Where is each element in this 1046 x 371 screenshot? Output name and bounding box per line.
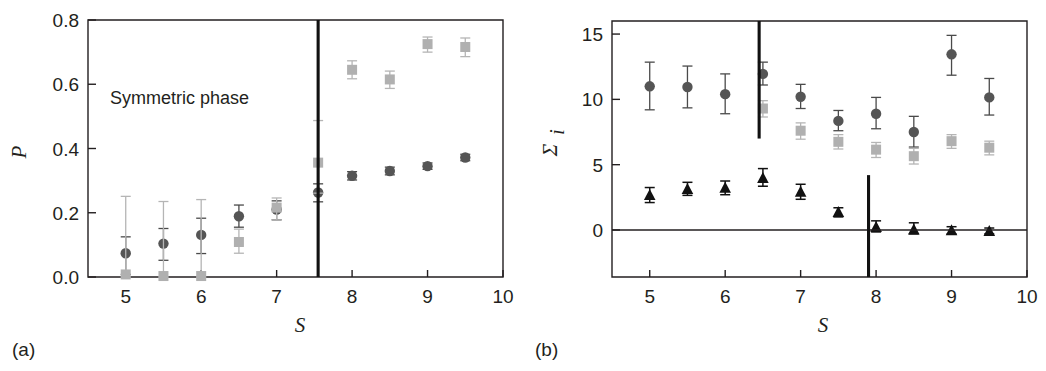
sigma-subscript-i: i [545, 129, 569, 135]
panel-a-x-axis-title: S [295, 313, 306, 337]
data-point-dark-circles [984, 78, 994, 115]
data-point-dark-circles [909, 116, 919, 147]
data-point-black-triangles [682, 182, 694, 195]
y-tick-label: 0.6 [53, 74, 79, 95]
panel-b-y-axis-title: Σ i [538, 129, 569, 157]
y-tick-label: 0.2 [53, 203, 79, 224]
data-point-dark-circles [234, 205, 244, 227]
y-tick-label: 0.8 [53, 10, 79, 31]
y-tick-label: 15 [582, 24, 603, 45]
data-point-black-triangles [795, 184, 807, 199]
panel-a-plot: 56789100.00.20.40.60.8 P S Symmetric pha… [0, 0, 523, 371]
figure-container: 56789100.00.20.40.60.8 P S Symmetric pha… [0, 0, 1046, 371]
data-point-dark-circles [833, 110, 843, 130]
data-point-dark-circles [460, 152, 470, 162]
sigma-symbol: Σ [538, 143, 562, 157]
data-point-dark-circles [720, 74, 730, 114]
x-tick-label: 10 [1016, 286, 1037, 307]
y-tick-label: 0.0 [53, 267, 79, 288]
x-tick-label: 6 [196, 286, 207, 307]
data-point-dark-circles [422, 161, 432, 171]
data-point-dark-circles [645, 62, 655, 110]
y-tick-label: 0.4 [53, 139, 80, 160]
panel-a: 56789100.00.20.40.60.8 P S Symmetric pha… [0, 0, 523, 371]
data-point-dark-circles [385, 166, 395, 176]
panel-a-label: (a) [12, 339, 35, 360]
x-tick-label: 9 [946, 286, 957, 307]
panel-a-ticks [88, 20, 503, 277]
data-point-gray-squares [984, 141, 994, 155]
data-point-gray-squares [234, 229, 244, 253]
x-tick-label: 9 [422, 286, 433, 307]
y-tick-label: 0 [592, 220, 603, 241]
panel-a-axes-frame [88, 20, 503, 277]
x-tick-label: 6 [720, 286, 731, 307]
y-tick-label: 5 [592, 155, 603, 176]
data-point-gray-squares [909, 148, 919, 164]
panel-b: 5678910051015 Σ i S (b) [523, 0, 1046, 371]
data-point-gray-squares [385, 71, 395, 88]
data-point-dark-circles [682, 66, 692, 108]
data-point-black-triangles [908, 223, 920, 235]
x-tick-label: 8 [347, 286, 358, 307]
data-point-dark-circles [871, 97, 881, 128]
x-tick-label: 5 [120, 286, 131, 307]
data-point-dark-circles [795, 84, 805, 108]
data-point-black-triangles [644, 188, 656, 203]
data-point-gray-squares [423, 37, 433, 52]
panel-b-axes-frame [612, 21, 1027, 277]
panel-a-y-axis-title: P [7, 145, 31, 159]
panel-b-label: (b) [535, 339, 558, 360]
data-point-gray-squares [947, 135, 957, 149]
symmetric-phase-annotation: Symmetric phase [110, 88, 249, 108]
x-tick-label: 5 [644, 286, 655, 307]
panel-b-x-axis-title: S [818, 313, 829, 337]
x-tick-label: 10 [492, 286, 513, 307]
data-point-black-triangles [719, 181, 731, 195]
data-point-black-triangles [757, 169, 769, 187]
panel-b-data-series [644, 35, 995, 236]
data-point-gray-squares [871, 142, 881, 157]
data-point-gray-squares [796, 123, 806, 139]
panel-b-plot: 5678910051015 Σ i S (b) [523, 0, 1046, 371]
panel-b-vertical-dividers [612, 21, 1027, 277]
data-point-dark-circles [946, 35, 956, 75]
data-point-gray-squares [196, 200, 206, 281]
data-point-dark-circles [347, 171, 357, 181]
x-tick-label: 7 [271, 286, 282, 307]
x-tick-label: 7 [795, 286, 806, 307]
data-point-gray-squares [833, 135, 843, 149]
data-point-gray-squares [460, 38, 470, 57]
y-tick-label: 10 [582, 89, 603, 110]
x-tick-label: 8 [871, 286, 882, 307]
panel-a-tick-labels: 56789100.00.20.40.60.8 [53, 10, 514, 307]
panel-a-data-series [121, 37, 471, 281]
data-point-gray-squares [121, 196, 131, 279]
data-point-gray-squares [347, 61, 357, 79]
panel-b-ticks [612, 34, 1027, 277]
data-point-black-triangles [833, 206, 845, 217]
